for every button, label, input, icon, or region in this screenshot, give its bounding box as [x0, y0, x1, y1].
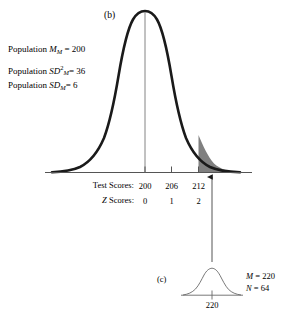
population-stat-mean-symbol: M [49, 44, 57, 54]
population-stat-mean-equals: = [62, 44, 72, 54]
z-scores-row-label: Z Scores: [42, 196, 134, 206]
population-stat-sd-symbol: SD [49, 80, 60, 90]
population-stat-mean: Population MM = 200 [8, 44, 85, 55]
z-score-value-1: 1 [159, 196, 185, 206]
test-scores-row-label: Test Scores: [42, 181, 134, 191]
shaded-tail-region [199, 135, 239, 173]
sample-mean-value: 220 [262, 271, 275, 281]
statistics-figure: (b) Population MM = 200 Population SD2M=… [0, 0, 292, 321]
population-stat-variance-prefix: Population [8, 66, 49, 76]
sample-n-label: N = 64 [246, 284, 269, 294]
population-stat-sd-equals: = [66, 80, 73, 90]
test-score-value-200: 200 [132, 181, 158, 191]
population-stat-variance-value: 36 [76, 66, 85, 76]
test-score-value-206: 206 [159, 181, 185, 191]
z-score-value-2: 2 [186, 196, 212, 206]
population-stat-mean-prefix: Population [8, 44, 49, 54]
sample-tick-label-220: 220 [199, 300, 225, 310]
z-score-value-0: 0 [132, 196, 158, 206]
sample-mean-label: M = 220 [246, 272, 275, 282]
population-stat-mean-value: 200 [72, 44, 86, 54]
population-stat-sd-value: 6 [73, 80, 78, 90]
sample-n-symbol: N [246, 283, 252, 293]
population-stat-variance: Population SD2M= 36 [8, 64, 85, 77]
population-stat-sd: Population SDM= 6 [8, 80, 78, 91]
sample-mean-symbol: M [246, 271, 253, 281]
test-score-value-212: 212 [186, 181, 212, 191]
panel-b-letter: (b) [104, 10, 115, 21]
panel-c-letter: (c) [157, 275, 166, 285]
normal-curve-b [52, 11, 240, 172]
population-stat-sd-prefix: Population [8, 80, 49, 90]
sample-n-value: 64 [261, 283, 270, 293]
population-stat-variance-symbol: SD [49, 66, 60, 76]
